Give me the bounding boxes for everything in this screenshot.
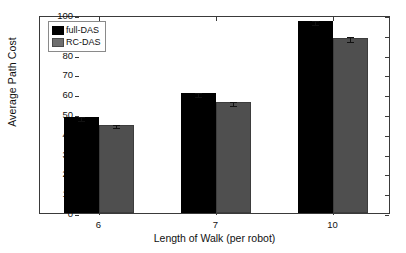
y-tick-mark (75, 76, 79, 77)
error-bar-cap (312, 21, 319, 22)
x-tick-mark-top (333, 17, 334, 21)
plot-area: 0102030405060708090100 6710 full-DAS RC-… (39, 16, 390, 214)
legend: full-DAS RC-DAS (48, 21, 106, 52)
y-tick-mark (75, 17, 79, 18)
y-tick-mark (75, 96, 79, 97)
y-axis-label: Average Path Cost (6, 0, 18, 182)
error-bar-cap (195, 97, 202, 98)
y-tick-mark-right (385, 215, 389, 216)
x-axis-label: Length of Walk (per robot) (39, 232, 390, 244)
bar-full-das-6 (64, 117, 99, 213)
y-tick: 100 (40, 17, 79, 18)
error-bar-cap (347, 37, 354, 38)
y-tick-mark-right (385, 17, 389, 18)
legend-label: full-DAS (66, 26, 99, 35)
error-bar-cap (312, 25, 319, 26)
error-bar-cap (78, 117, 85, 118)
error-bar-cap (230, 106, 237, 107)
legend-swatch-icon (52, 26, 64, 35)
bar-rc-das-6 (99, 125, 134, 213)
x-tick-mark-top (216, 17, 217, 21)
legend-item: RC-DAS (52, 37, 101, 48)
y-tick-mark-right (385, 156, 389, 157)
bar-chart-figure: Average Path Cost 0102030405060708090100… (0, 0, 406, 253)
y-tick: 80 (40, 57, 79, 58)
y-tick-mark-right (385, 116, 389, 117)
error-bar-cap (195, 93, 202, 94)
x-tick-label: 7 (191, 219, 241, 230)
y-tick-label: 70 (62, 69, 73, 80)
y-tick-mark-right (385, 76, 389, 77)
bar-full-das-7 (181, 93, 216, 213)
y-tick: 0 (40, 215, 79, 216)
error-bar-cap (113, 128, 120, 129)
error-bar-cap (347, 42, 354, 43)
bar-rc-das-10 (333, 38, 368, 213)
y-tick-mark-right (385, 57, 389, 58)
x-tick-label: 6 (74, 219, 124, 230)
legend-item: full-DAS (52, 25, 101, 36)
y-tick-mark-right (385, 96, 389, 97)
x-tick-label: 10 (308, 219, 358, 230)
bar-full-das-10 (298, 21, 333, 213)
y-tick-label: 100 (57, 10, 73, 21)
y-tick-mark-right (385, 195, 389, 196)
error-bar-cap (113, 125, 120, 126)
legend-label: RC-DAS (66, 38, 101, 47)
error-bar-cap (230, 102, 237, 103)
y-tick: 70 (40, 76, 79, 77)
y-tick-mark-right (385, 136, 389, 137)
legend-swatch-icon (52, 38, 64, 47)
bar-rc-das-7 (216, 102, 251, 213)
y-tick-mark (75, 57, 79, 58)
y-tick-mark (75, 215, 79, 216)
error-bar-cap (78, 121, 85, 122)
y-tick-mark-right (385, 37, 389, 38)
y-tick-mark-right (385, 175, 389, 176)
y-tick: 60 (40, 96, 79, 97)
y-tick-label: 60 (62, 89, 73, 100)
